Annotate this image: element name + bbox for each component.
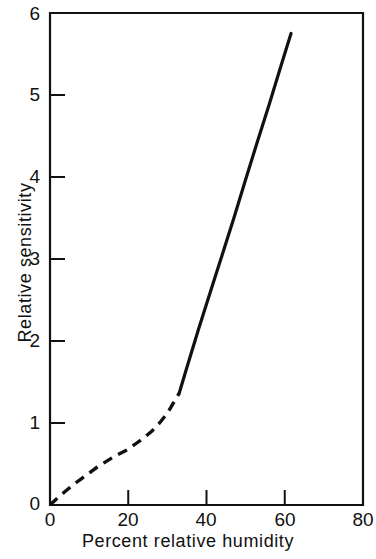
x-tick-label-80: 80 — [340, 509, 376, 531]
data-series-dashed — [50, 393, 179, 505]
x-tick-label-40: 40 — [183, 509, 229, 531]
chart-figure: 6 5 4 3 2 1 0 0 20 40 60 80 Percent rela… — [0, 0, 376, 559]
y-axis-ticks — [50, 95, 65, 423]
x-axis-ticks — [128, 490, 285, 505]
x-axis-title: Percent relative humidity — [0, 531, 376, 552]
x-tick-label-0: 0 — [27, 509, 73, 531]
y-axis-title: Relative sensitivity — [15, 143, 36, 383]
x-tick-label-20: 20 — [105, 509, 151, 531]
axes-frame — [50, 13, 363, 505]
y-tick-label-5: 5 — [14, 84, 40, 106]
chart-plot-area — [0, 0, 376, 559]
y-tick-label-1: 1 — [14, 412, 40, 434]
y-tick-label-6: 6 — [14, 3, 40, 25]
data-series-solid — [179, 34, 291, 394]
x-tick-label-60: 60 — [262, 509, 308, 531]
